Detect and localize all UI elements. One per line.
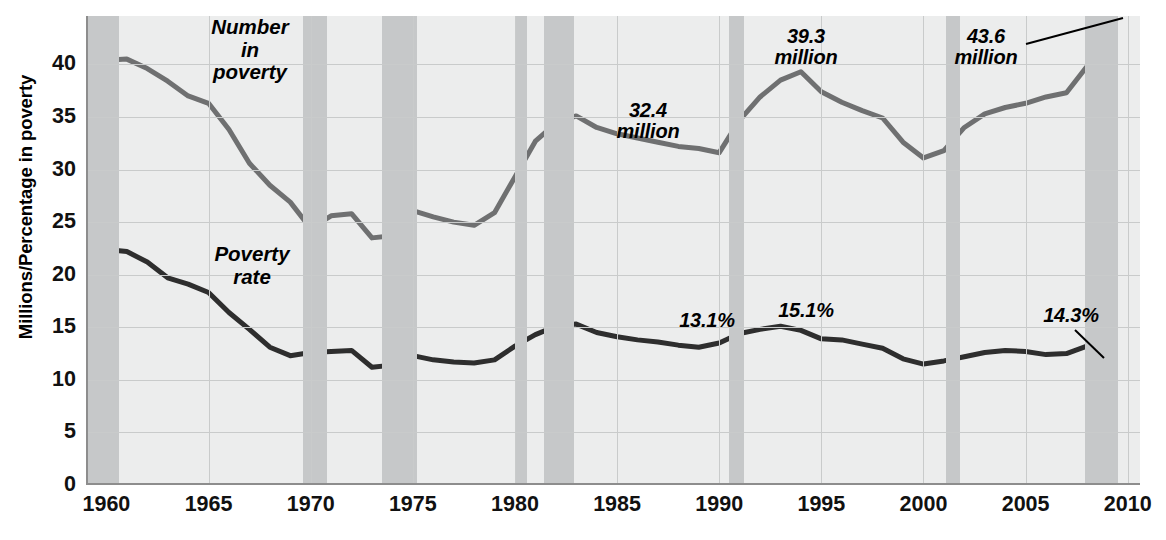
x-tick-label: 1980 bbox=[470, 492, 560, 517]
x-tick-label: 1975 bbox=[368, 492, 458, 517]
callout-line-2: million bbox=[931, 47, 1041, 68]
y-tick-label: 10 bbox=[14, 367, 76, 392]
series-label-poverty-rate: Poverty rate bbox=[182, 243, 322, 288]
callout-line-1: 14.3% bbox=[1016, 305, 1126, 326]
callout-line-2: million bbox=[593, 121, 703, 142]
callout-a4: 13.1% bbox=[652, 310, 762, 331]
callout-line-1: 43.6 bbox=[931, 26, 1041, 47]
callout-line-1: 13.1% bbox=[652, 310, 762, 331]
poverty-chart-figure: Millions/Percentage in poverty 051015202… bbox=[0, 0, 1166, 540]
x-tick-label: 1960 bbox=[61, 492, 151, 517]
series-label-number-line2: in bbox=[175, 39, 325, 62]
x-tick-label: 2010 bbox=[1083, 492, 1166, 517]
y-tick-label: 5 bbox=[14, 419, 76, 444]
callout-a3: 43.6million bbox=[931, 26, 1041, 69]
y-tick-label: 25 bbox=[14, 209, 76, 234]
callout-line-1: 32.4 bbox=[593, 100, 703, 121]
callout-line-1: 39.3 bbox=[751, 26, 861, 47]
callout-a5: 15.1% bbox=[751, 300, 861, 321]
x-tick-label: 1995 bbox=[776, 492, 866, 517]
x-tick-label: 1990 bbox=[674, 492, 764, 517]
x-tick-label: 2000 bbox=[878, 492, 968, 517]
series-label-rate-line2: rate bbox=[182, 266, 322, 289]
x-tick-label: 1965 bbox=[164, 492, 254, 517]
y-tick-label: 15 bbox=[14, 314, 76, 339]
callout-a2: 39.3million bbox=[751, 26, 861, 69]
callout-line-1: 15.1% bbox=[751, 300, 861, 321]
y-tick-label: 30 bbox=[14, 157, 76, 182]
series-label-number-line1: Number bbox=[175, 16, 325, 39]
series-label-number-line3: poverty bbox=[175, 61, 325, 84]
callout-line-2: million bbox=[751, 47, 861, 68]
y-tick-label: 40 bbox=[14, 51, 76, 76]
y-tick-label: 20 bbox=[14, 262, 76, 287]
series-label-rate-line1: Poverty bbox=[182, 243, 322, 266]
x-tick-label: 1985 bbox=[572, 492, 662, 517]
series-label-number-in-poverty: Number in poverty bbox=[175, 16, 325, 84]
callout-a6: 14.3% bbox=[1016, 305, 1126, 326]
y-tick-label: 35 bbox=[14, 104, 76, 129]
x-tick-label: 1970 bbox=[266, 492, 356, 517]
x-tick-label: 2005 bbox=[981, 492, 1071, 517]
callout-a1: 32.4million bbox=[593, 100, 703, 143]
